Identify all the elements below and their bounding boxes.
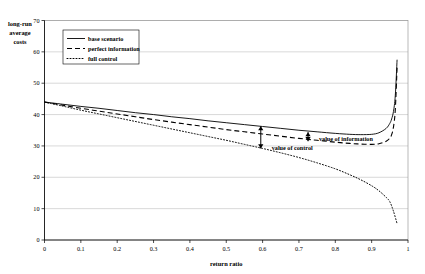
annotation-arrowhead-up	[305, 132, 310, 136]
legend-label: base scenario	[88, 35, 123, 42]
annotation-value-of-control: value of control	[258, 126, 313, 151]
x-tick-label-0.4: 0.4	[186, 245, 194, 252]
y-axis-ticks: 010203040506070	[33, 17, 44, 244]
annotation-label: value of information	[319, 135, 374, 142]
chart-container: 010203040506070 00.10.20.30.40.50.60.70.…	[0, 0, 425, 274]
annotation-label: value of control	[272, 144, 313, 151]
legend-label: perfect information	[88, 45, 140, 52]
y-axis-title-line: average	[9, 29, 30, 36]
line-chart: 010203040506070 00.10.20.30.40.50.60.70.…	[0, 0, 425, 274]
series-perfect-information	[45, 68, 398, 145]
x-tick-label-0: 0	[43, 245, 46, 252]
x-tick-label-0.6: 0.6	[259, 245, 267, 252]
x-tick-label-0.1: 0.1	[77, 245, 85, 252]
x-axis-ticks: 00.10.20.30.40.50.60.70.80.91	[43, 240, 410, 252]
chart-legend: base scenarioperfect informationfull con…	[63, 30, 140, 64]
x-tick-label-0.2: 0.2	[113, 245, 121, 252]
y-tick-label-10: 10	[33, 205, 39, 212]
y-tick-label-30: 30	[33, 142, 39, 149]
series-base-scenario	[45, 60, 398, 135]
y-tick-label-50: 50	[33, 79, 39, 86]
y-tick-label-60: 60	[33, 48, 39, 55]
series-full-control	[45, 102, 398, 224]
y-tick-label-40: 40	[33, 111, 39, 118]
y-axis-title-line: costs	[13, 38, 27, 45]
y-tick-label-0: 0	[36, 236, 39, 243]
x-tick-label-0.5: 0.5	[222, 245, 230, 252]
x-tick-label-1: 1	[406, 245, 409, 252]
x-tick-label-0.7: 0.7	[295, 245, 303, 252]
x-tick-label-0.3: 0.3	[150, 245, 158, 252]
legend-label: full control	[88, 55, 118, 62]
y-axis-title-line: long-run	[8, 20, 32, 27]
y-tick-label-70: 70	[33, 17, 39, 24]
annotations-layer: value of informationvalue of control	[258, 126, 373, 151]
x-axis-title: return ratio	[210, 260, 242, 267]
x-tick-label-0.8: 0.8	[331, 245, 339, 252]
y-tick-label-20: 20	[33, 173, 39, 180]
x-tick-label-0.9: 0.9	[368, 245, 376, 252]
